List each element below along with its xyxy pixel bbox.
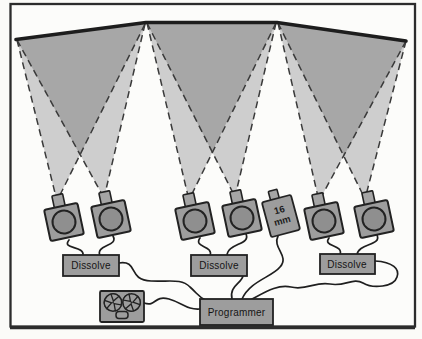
programmer-label: Programmer <box>208 307 266 318</box>
dissolve-label: Dissolve <box>71 260 111 271</box>
tape-reel-icon <box>122 293 141 312</box>
diagram-canvas: 16 mm Dissolve Dissolve Dissolve Program… <box>0 0 422 339</box>
tape-reel-icon <box>104 293 123 312</box>
dissolve-unit-3: Dissolve <box>320 254 375 274</box>
dissolve-label: Dissolve <box>327 259 367 270</box>
dissolve-unit-2: Dissolve <box>191 255 247 276</box>
dissolve-label: Dissolve <box>199 260 239 271</box>
overlap-beam-cones <box>17 23 406 156</box>
projection-diagram: 16 mm Dissolve Dissolve Dissolve Program… <box>0 0 422 339</box>
programmer-unit: Programmer <box>200 299 273 325</box>
dissolve-unit-1: Dissolve <box>63 255 119 276</box>
tape-head-icon <box>116 312 128 319</box>
tape-recorder-icon <box>100 291 144 322</box>
